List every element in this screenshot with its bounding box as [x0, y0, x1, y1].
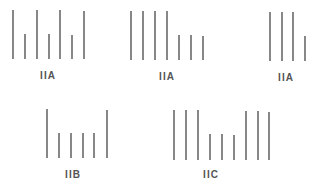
bar-group-iia-2	[270, 12, 305, 61]
group-label: IIC	[203, 169, 219, 180]
group-label: IIA	[159, 71, 175, 82]
group-label: IIB	[65, 169, 81, 180]
bar-group-iib-3	[47, 109, 107, 158]
bar-group-iia-0	[13, 10, 84, 59]
bar-group-iia-1	[131, 11, 203, 60]
group-label: IIA	[278, 72, 294, 83]
bar-group-iic-4	[174, 110, 269, 160]
line-pattern-diagram	[0, 0, 313, 191]
group-label: IIA	[40, 70, 56, 81]
